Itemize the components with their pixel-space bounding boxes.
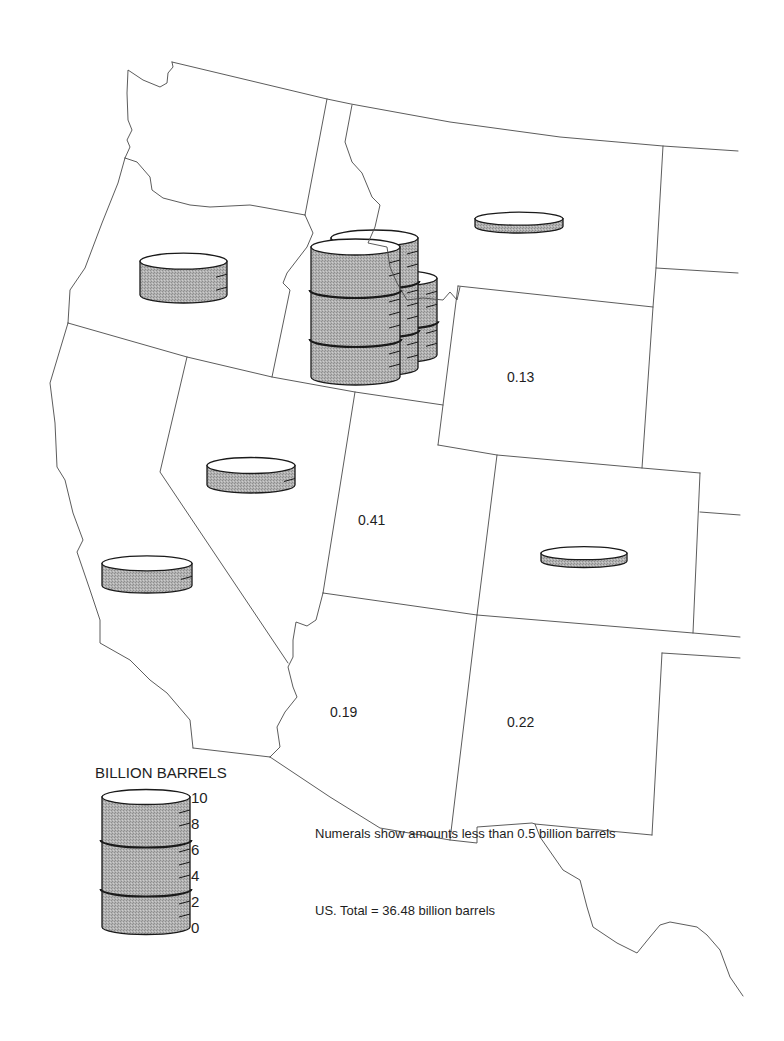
legend-scale-label: 8 [191,815,199,832]
barrel-idaho-front [310,239,402,385]
barrel-top [541,547,627,560]
border-37th-parallel [323,593,740,637]
coastline-oregon [68,158,125,323]
border-rio-grande [535,824,743,996]
legend-scale-label: 2 [191,893,199,910]
legend-scale-label: 4 [191,867,199,884]
border-california-mexico [193,748,270,757]
map-figure: 0.13 0.41 0.19 0.22 BILLION BARRELS 10 8… [0,0,784,1041]
barrel-body [311,247,400,385]
legend-barrel [101,790,192,935]
coastline-california [50,323,193,748]
barrel-top [475,212,563,225]
border-wyoming-west [438,286,458,445]
barrel-california [102,556,192,593]
coastline-washington [125,62,173,158]
numerals-note: Numerals show amounts less than 0.5 bill… [315,826,616,841]
legend-scale-label: 10 [191,789,208,806]
barrel-top [140,253,227,269]
border-nevada-utah [323,392,355,593]
border-colorado-river [270,593,323,757]
border-washington-oregon [125,158,305,215]
border-newmexico-texas-east [652,653,662,835]
border-california-nevada [160,357,288,663]
border-oregon-idaho [272,215,313,377]
legend-title: BILLION BARRELS [95,764,227,781]
numeral-utah: 0.41 [358,512,385,528]
numeral-wyoming: 0.13 [507,369,534,385]
map-svg: 0.13 0.41 0.19 0.22 BILLION BARRELS 10 8… [0,0,784,1041]
border-colorado-east [693,473,700,633]
border-nebraska-kansas [700,512,740,515]
us-total-note: US. Total = 36.48 billion barrels [315,903,496,918]
border-wyoming-south [438,445,700,473]
numeral-arizona: 0.19 [330,704,357,720]
legend-scale-label: 0 [191,919,199,936]
border-montana-wyoming [458,286,653,307]
border-utah-colorado [477,455,497,615]
barrel-top [207,458,295,474]
barrel-body [102,797,190,935]
barrel-colorado [541,547,627,568]
barrel-montana [475,212,563,233]
barrel-top [102,556,192,571]
border-washington-idaho [305,99,327,215]
barrel-oregon [140,253,227,303]
numeral-new-mexico: 0.22 [507,714,534,730]
border-texas-panhandle-north [662,653,740,658]
barrel-top [102,790,190,805]
border-canada [172,62,738,151]
border-north-south-dakota [656,268,738,273]
numeral-labels: 0.13 0.41 0.19 0.22 [330,369,534,730]
border-arizona-newmexico [450,615,477,840]
legend-scale-label: 6 [191,841,199,858]
barrel-nevada [207,458,295,494]
